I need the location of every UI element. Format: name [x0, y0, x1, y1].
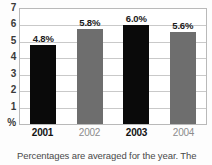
bar-value-label-2004: 5.6% [172, 20, 193, 31]
bar-slot-2004: 5.6% [160, 9, 207, 124]
bar-2001[interactable]: 4.8% [30, 45, 56, 124]
bar-2002[interactable]: 5.8% [77, 29, 103, 124]
bar-slot-2001: 4.8% [20, 9, 67, 124]
y-axis-tick-labels: 7 6 5 4 3 2 1 % [0, 4, 18, 128]
bar-chart-figure: 7 6 5 4 3 2 1 % 4.8% [0, 0, 212, 165]
y-axis-tick-1: 1 [11, 102, 16, 112]
bar-value-label-2003: 6.0% [126, 13, 147, 24]
bar-value-label-2002: 5.8% [79, 17, 100, 28]
plot-area: 7 6 5 4 3 2 1 % 4.8% [0, 4, 212, 134]
y-axis-tick-6: 6 [11, 19, 16, 29]
plot-panel: 4.8% 5.8% 6.0% 5.6% [19, 8, 207, 125]
bar-2004[interactable]: 5.6% [170, 32, 196, 124]
x-axis-label-2001: 2001 [19, 125, 66, 141]
bar-2003[interactable]: 6.0% [123, 25, 149, 124]
y-axis-tick-3: 3 [11, 69, 16, 79]
y-axis-tick-7: 7 [11, 3, 16, 13]
x-axis-label-2002: 2002 [66, 125, 113, 141]
bar-slot-2003: 6.0% [113, 9, 160, 124]
x-axis-label-2003: 2003 [113, 125, 160, 141]
bar-slot-2002: 5.8% [67, 9, 114, 124]
y-axis-tick-5: 5 [11, 36, 16, 46]
x-axis-label-2004: 2004 [160, 125, 207, 141]
y-axis-tick-4: 4 [11, 52, 16, 62]
bar-series: 4.8% 5.8% 6.0% 5.6% [20, 9, 206, 124]
y-axis-unit-percent: % [7, 118, 16, 128]
bar-value-label-2001: 4.8% [33, 33, 54, 44]
x-axis-category-labels: 2001 2002 2003 2004 [19, 125, 207, 141]
chart-caption: Percentages are averaged for the year. T… [17, 150, 212, 162]
y-axis-tick-2: 2 [11, 85, 16, 95]
